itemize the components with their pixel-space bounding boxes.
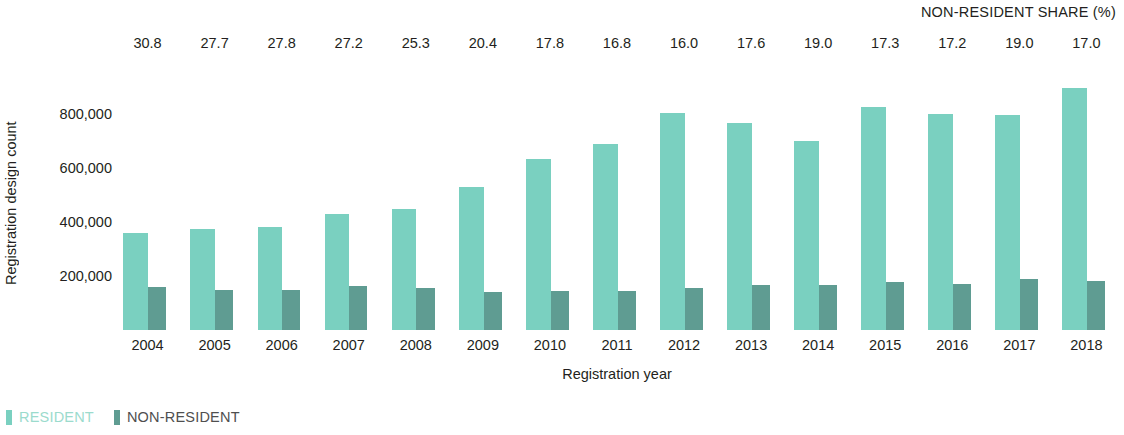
legend-swatch-icon: [114, 410, 120, 425]
bars-container: [114, 60, 1120, 330]
bar-non-resident[interactable]: [615, 291, 636, 330]
bar-resident[interactable]: [526, 159, 551, 330]
bar-non-resident[interactable]: [481, 292, 502, 330]
bar-resident[interactable]: [258, 227, 283, 330]
bar-non-resident[interactable]: [1084, 281, 1105, 330]
bar-group: [248, 60, 315, 330]
bar-non-resident[interactable]: [347, 286, 368, 330]
share-value: 16.8: [583, 32, 650, 54]
bar-resident[interactable]: [325, 214, 350, 330]
share-value: 27.7: [181, 32, 248, 54]
bar-resident[interactable]: [392, 209, 417, 331]
share-value: 17.2: [919, 32, 986, 54]
bar-group: [382, 60, 449, 330]
bar-resident[interactable]: [861, 107, 886, 330]
legend-item-non-resident[interactable]: NON-RESIDENT: [114, 409, 240, 425]
y-axis-tick-label: 400,000: [60, 214, 112, 230]
bar-group: [449, 60, 516, 330]
share-value: 30.8: [114, 32, 181, 54]
bar-group: [986, 60, 1053, 330]
legend-swatch-icon: [6, 410, 12, 425]
bar-group: [583, 60, 650, 330]
x-axis-ticks: 2004200520062007200820092010201120122013…: [114, 334, 1120, 356]
x-axis-tick-label: 2006: [248, 334, 315, 356]
bar-non-resident[interactable]: [883, 282, 904, 330]
bar-non-resident[interactable]: [682, 288, 703, 330]
x-axis-tick-label: 2012: [651, 334, 718, 356]
x-axis-tick-label: 2004: [114, 334, 181, 356]
y-axis-title: Registration design count: [0, 88, 22, 318]
bar-non-resident[interactable]: [816, 285, 837, 330]
x-axis-tick-label: 2007: [315, 334, 382, 356]
bar-group: [315, 60, 382, 330]
share-value: 17.6: [718, 32, 785, 54]
share-value: 20.4: [449, 32, 516, 54]
bar-group: [852, 60, 919, 330]
bar-group: [785, 60, 852, 330]
share-value: 19.0: [785, 32, 852, 54]
share-value: 17.3: [852, 32, 919, 54]
share-value: 25.3: [382, 32, 449, 54]
bar-non-resident[interactable]: [548, 291, 569, 330]
bar-non-resident[interactable]: [950, 284, 971, 330]
bar-resident[interactable]: [794, 141, 819, 330]
share-value: 17.8: [516, 32, 583, 54]
y-axis-tick-label: 600,000: [60, 160, 112, 176]
x-axis-tick-label: 2005: [181, 334, 248, 356]
bar-non-resident[interactable]: [749, 285, 770, 330]
bar-non-resident[interactable]: [1017, 279, 1038, 330]
bar-resident[interactable]: [928, 114, 953, 330]
non-resident-share-title: NON-RESIDENT SHARE (%): [921, 4, 1116, 20]
x-axis-tick-label: 2015: [852, 334, 919, 356]
bar-group: [181, 60, 248, 330]
x-axis-tick-label: 2017: [986, 334, 1053, 356]
share-value: 27.2: [315, 32, 382, 54]
bar-resident[interactable]: [660, 113, 685, 330]
bar-chart: NON-RESIDENT SHARE (%) 30.8 27.7 27.8 27…: [0, 0, 1124, 435]
share-value: 16.0: [651, 32, 718, 54]
bar-resident[interactable]: [727, 123, 752, 330]
bar-group: [718, 60, 785, 330]
x-axis-tick-label: 2018: [1053, 334, 1120, 356]
legend-label: NON-RESIDENT: [127, 409, 240, 425]
share-value: 19.0: [986, 32, 1053, 54]
bar-group: [114, 60, 181, 330]
bar-resident[interactable]: [593, 144, 618, 330]
share-value: 17.0: [1053, 32, 1120, 54]
bar-resident[interactable]: [1062, 88, 1087, 330]
y-axis-tick-label: 200,000: [60, 268, 112, 284]
bar-group: [516, 60, 583, 330]
x-axis-title: Registration year: [114, 366, 1120, 382]
chart-legend: RESIDENT NON-RESIDENT: [6, 409, 240, 425]
x-axis-tick-label: 2010: [516, 334, 583, 356]
bar-resident[interactable]: [190, 229, 215, 330]
y-axis-tick-label: 800,000: [60, 106, 112, 122]
legend-item-resident[interactable]: RESIDENT: [6, 409, 94, 425]
bar-non-resident[interactable]: [414, 288, 435, 330]
bar-resident[interactable]: [459, 187, 484, 330]
x-axis-tick-label: 2009: [449, 334, 516, 356]
bar-non-resident[interactable]: [213, 290, 234, 331]
x-axis-tick-label: 2011: [583, 334, 650, 356]
bar-group: [1053, 60, 1120, 330]
x-axis-tick-label: 2013: [718, 334, 785, 356]
non-resident-share-row: 30.8 27.7 27.8 27.2 25.3 20.4 17.8 16.8 …: [114, 32, 1120, 54]
legend-label: RESIDENT: [19, 409, 94, 425]
x-axis-tick-label: 2014: [785, 334, 852, 356]
y-axis-ticks: 200,000400,000600,000800,000: [26, 60, 112, 330]
bar-group: [651, 60, 718, 330]
x-axis-tick-label: 2008: [382, 334, 449, 356]
plot-area: [114, 60, 1120, 330]
share-value: 27.8: [248, 32, 315, 54]
bar-resident[interactable]: [123, 233, 148, 330]
bar-non-resident[interactable]: [146, 287, 167, 330]
bar-resident[interactable]: [995, 115, 1020, 330]
bar-non-resident[interactable]: [280, 290, 301, 331]
bar-group: [919, 60, 986, 330]
x-axis-tick-label: 2016: [919, 334, 986, 356]
